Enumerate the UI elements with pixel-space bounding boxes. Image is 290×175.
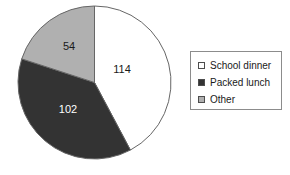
pie-slices-group <box>18 6 171 159</box>
legend-swatch-school-dinner <box>198 62 205 69</box>
pie-graphic: 11410254 <box>17 5 172 160</box>
legend-label-other: Other <box>210 94 235 105</box>
pie-value-label-other: 54 <box>63 40 75 52</box>
legend-swatch-packed-lunch <box>198 79 205 86</box>
legend-item-packed-lunch[interactable]: Packed lunch <box>198 74 275 90</box>
pie-chart-figure: 11410254 School dinner Packed lunch Othe… <box>0 0 290 175</box>
legend-item-other[interactable]: Other <box>198 91 275 107</box>
pie-svg: 11410254 <box>17 5 172 160</box>
chart-legend: School dinner Packed lunch Other <box>190 51 282 110</box>
pie-value-label-packed-lunch: 102 <box>59 103 77 115</box>
pie-value-label-school-dinner: 114 <box>113 63 131 75</box>
legend-label-packed-lunch: Packed lunch <box>210 77 270 88</box>
legend-label-school-dinner: School dinner <box>210 60 271 71</box>
legend-item-school-dinner[interactable]: School dinner <box>198 57 275 73</box>
legend-swatch-other <box>198 96 205 103</box>
